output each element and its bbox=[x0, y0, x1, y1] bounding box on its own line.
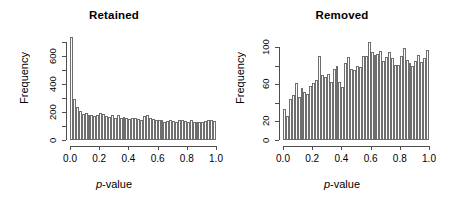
x-axis-title-suffix: -value bbox=[102, 178, 132, 190]
y-axis-tick-retained bbox=[62, 140, 66, 141]
x-axis-tick-retained bbox=[158, 146, 159, 150]
x-axis-tick-removed bbox=[371, 146, 372, 150]
x-axis-tick-retained bbox=[70, 146, 71, 150]
y-axis-tick-retained bbox=[62, 56, 66, 57]
x-axis-tick-removed bbox=[312, 146, 313, 150]
x-axis-title-removed: p-value bbox=[228, 178, 456, 191]
panel-removed: Removed Frequency p-value 020601000.00.2… bbox=[228, 0, 456, 207]
x-axis-tick-retained bbox=[99, 146, 100, 150]
bars-retained bbox=[70, 36, 216, 140]
y-axis-tick-label-retained: 0 bbox=[48, 126, 58, 154]
y-axis-tick-label-retained: 400 bbox=[48, 70, 58, 98]
plot-area-retained bbox=[70, 36, 216, 140]
panel-title-removed: Removed bbox=[228, 8, 456, 22]
x-axis-title-suffix: -value bbox=[330, 178, 360, 190]
bars-removed bbox=[283, 36, 429, 140]
x-axis-tick-retained bbox=[128, 146, 129, 150]
y-axis-tick-removed bbox=[275, 103, 279, 104]
x-axis-tick-retained bbox=[187, 146, 188, 150]
y-axis-line-removed bbox=[279, 47, 280, 140]
y-axis-tick-label-retained: 200 bbox=[48, 98, 58, 126]
y-axis-line-retained bbox=[66, 42, 67, 140]
y-axis-tick-removed bbox=[275, 140, 279, 141]
x-axis-tick-removed bbox=[400, 146, 401, 150]
histogram-bar bbox=[213, 121, 216, 140]
x-axis-tick-label-removed: 1.0 bbox=[409, 153, 449, 164]
y-axis-tick-label-removed: 100 bbox=[261, 33, 271, 61]
y-axis-tick-label-removed: 20 bbox=[261, 107, 271, 135]
y-axis-tick-label-retained: 600 bbox=[48, 42, 58, 70]
y-axis-tick-retained bbox=[62, 112, 66, 113]
x-axis-tick-removed bbox=[283, 146, 284, 150]
panel-retained: Retained Frequency p-value 02004006000.0… bbox=[0, 0, 228, 207]
x-axis-tick-retained bbox=[216, 146, 217, 150]
x-axis-tick-removed bbox=[429, 146, 430, 150]
y-axis-tick-retained bbox=[62, 42, 66, 43]
y-axis-tick-removed bbox=[275, 121, 279, 122]
x-axis-tick-removed bbox=[341, 146, 342, 150]
y-axis-tick-removed bbox=[275, 66, 279, 67]
y-axis-tick-retained bbox=[62, 126, 66, 127]
x-axis-line-retained bbox=[70, 146, 216, 147]
histogram-figure: Retained Frequency p-value 02004006000.0… bbox=[0, 0, 457, 207]
plot-area-removed bbox=[283, 36, 429, 140]
histogram-bar bbox=[426, 50, 429, 140]
y-axis-tick-retained bbox=[62, 98, 66, 99]
y-axis-tick-retained bbox=[62, 84, 66, 85]
y-axis-tick-retained bbox=[62, 70, 66, 71]
y-axis-tick-removed bbox=[275, 84, 279, 85]
y-axis-tick-label-removed: 60 bbox=[261, 70, 271, 98]
panel-title-retained: Retained bbox=[0, 8, 228, 22]
y-axis-title-removed: Frequency bbox=[234, 52, 247, 104]
x-axis-title-retained: p-value bbox=[0, 178, 228, 191]
y-axis-tick-removed bbox=[275, 47, 279, 48]
x-axis-line-removed bbox=[283, 146, 429, 147]
y-axis-title-retained: Frequency bbox=[18, 52, 31, 104]
